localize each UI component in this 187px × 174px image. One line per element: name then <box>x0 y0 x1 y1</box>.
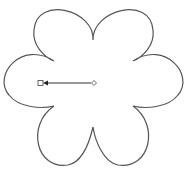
flower-outline[interactable] <box>4 10 183 166</box>
diamond-handle-icon[interactable] <box>92 81 97 86</box>
arrow-head-icon <box>43 81 48 86</box>
diagram-canvas <box>0 0 187 174</box>
square-handle-icon[interactable] <box>38 81 43 86</box>
